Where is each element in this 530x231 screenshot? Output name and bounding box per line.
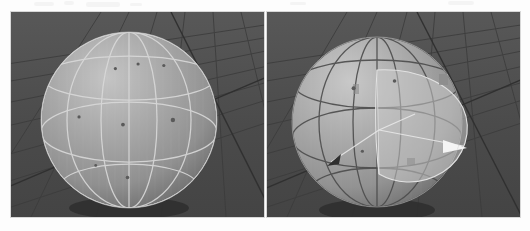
sphere-marker-2 [136,62,139,65]
patch-corner-tab-3 [407,158,415,165]
sphere-marker-8 [94,164,97,167]
left-viewport-render [11,12,264,217]
sphere-marker-2 [393,79,397,83]
sphere-marker-6 [171,118,175,122]
left-viewport[interactable] [11,12,264,217]
page-canvas [0,0,530,231]
figure-sphere-pair [0,0,530,231]
patch-corner-tab-1 [439,74,448,85]
right-viewport-render [267,12,520,217]
right-viewport[interactable] [267,12,520,217]
sphere-marker-3 [162,64,165,67]
sphere-marker-7 [126,176,130,180]
sphere-marker-1 [114,67,117,70]
sphere-marker-5 [121,123,125,127]
sphere-marker-3 [361,150,364,153]
sphere-marker-4 [77,115,80,118]
sphere-marker-1 [352,86,356,90]
